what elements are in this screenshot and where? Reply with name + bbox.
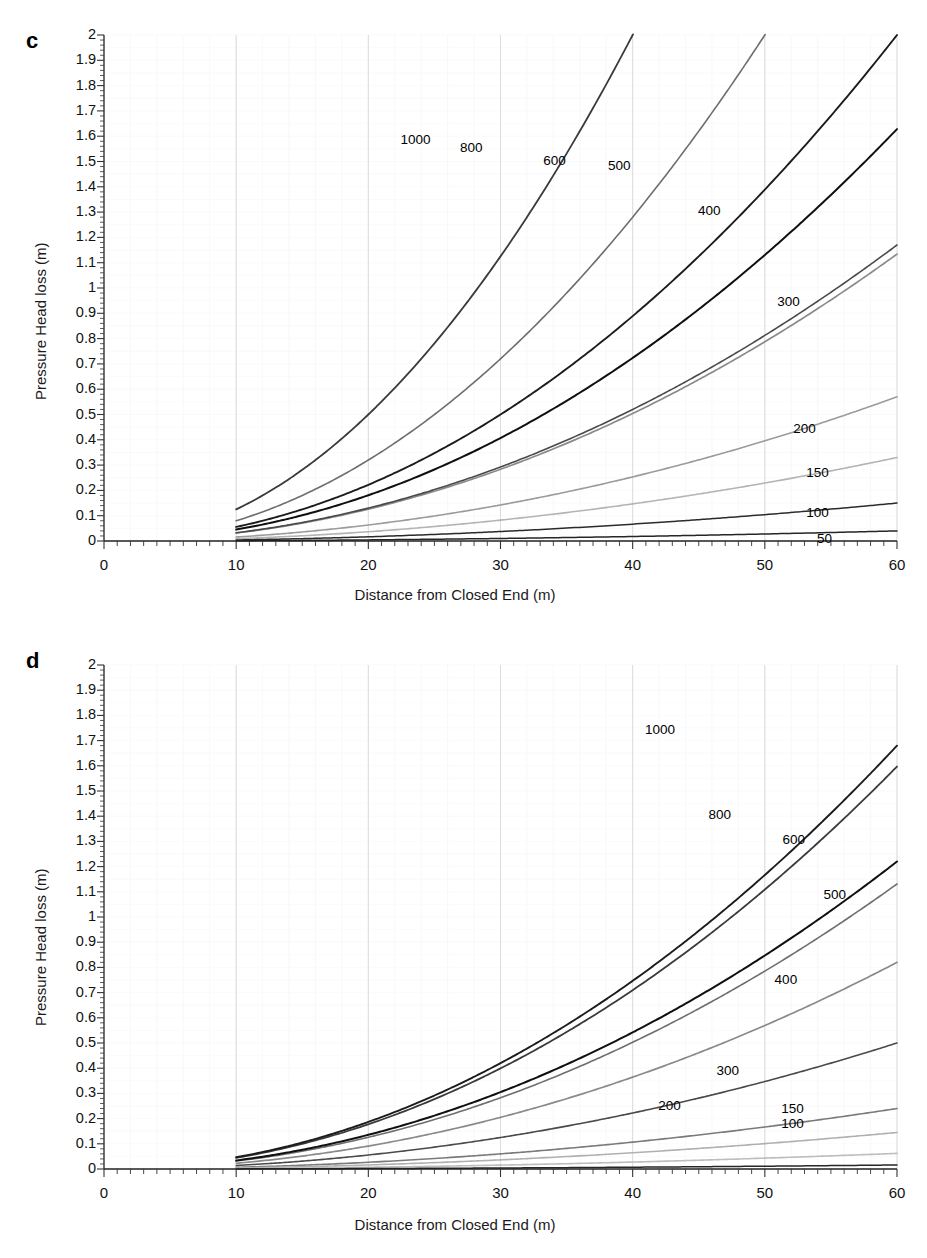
curve-label-500: 500 (608, 159, 631, 173)
curve-label-100: 100 (781, 1117, 804, 1131)
curve-label-800: 800 (460, 141, 483, 155)
curve-label-1000: 1000 (401, 133, 431, 147)
y-tick-label: 1 (48, 909, 96, 924)
x-tick-label: 50 (740, 1185, 790, 1200)
y-tick-label: 1.2 (48, 859, 96, 874)
y-tick-label: 0.1 (48, 1136, 96, 1151)
chart-plot-d (0, 628, 927, 1258)
y-tick-label: 1.8 (48, 78, 96, 93)
y-tick-label: 1.1 (48, 255, 96, 270)
x-tick-label: 40 (608, 1185, 658, 1200)
x-tick-label: 60 (872, 557, 922, 572)
y-tick-label: 1.5 (48, 783, 96, 798)
panel-c: c Pressure Head loss (m) Pipe diameter -… (0, 0, 927, 628)
curve-label-1000: 1000 (645, 723, 675, 737)
chart-plot-c (0, 0, 927, 628)
y-tick-label: 0 (48, 533, 96, 548)
y-tick-label: 0.7 (48, 356, 96, 371)
x-tick-label: 10 (211, 557, 261, 572)
y-tick-label: 0.6 (48, 1010, 96, 1025)
curve-label-100: 100 (806, 506, 829, 520)
curve-label-400: 400 (698, 204, 721, 218)
y-tick-label: 0.9 (48, 934, 96, 949)
curve-label-50: 50 (817, 532, 832, 546)
y-tick-label: 0.8 (48, 331, 96, 346)
y-tick-label: 2 (48, 27, 96, 42)
curve-label-600: 600 (783, 833, 806, 847)
curve-label-200: 200 (658, 1099, 681, 1113)
y-tick-label: 0.3 (48, 457, 96, 472)
y-tick-label: 1.9 (48, 52, 96, 67)
y-tick-label: 1.6 (48, 128, 96, 143)
y-tick-label: 2 (48, 657, 96, 672)
y-tick-label: 1.9 (48, 682, 96, 697)
y-tick-label: 0.9 (48, 305, 96, 320)
y-tick-label: 0.6 (48, 381, 96, 396)
x-tick-label: 30 (476, 1185, 526, 1200)
x-tick-label: 60 (872, 1185, 922, 1200)
x-tick-label: 50 (740, 557, 790, 572)
curve-label-500: 500 (824, 888, 847, 902)
y-tick-label: 0.1 (48, 508, 96, 523)
y-tick-label: 1.2 (48, 229, 96, 244)
x-tick-label: 0 (79, 557, 129, 572)
y-tick-label: 1 (48, 280, 96, 295)
x-tick-label: 30 (476, 557, 526, 572)
y-tick-label: 1.6 (48, 758, 96, 773)
curve-label-800: 800 (709, 808, 732, 822)
x-tick-label: 20 (343, 557, 393, 572)
y-tick-label: 1.3 (48, 833, 96, 848)
x-tick-label: 0 (79, 1185, 129, 1200)
y-tick-label: 1.1 (48, 884, 96, 899)
curve-label-150: 150 (806, 466, 829, 480)
curve-label-400: 400 (775, 973, 798, 987)
x-tick-label: 40 (608, 557, 658, 572)
y-tick-label: 0.8 (48, 959, 96, 974)
x-tick-label: 20 (343, 1185, 393, 1200)
y-tick-label: 0.3 (48, 1085, 96, 1100)
y-tick-label: 0.4 (48, 1060, 96, 1075)
y-tick-label: 0.7 (48, 985, 96, 1000)
y-tick-label: 1.7 (48, 733, 96, 748)
curve-label-300: 300 (777, 295, 800, 309)
y-tick-label: 1.7 (48, 103, 96, 118)
curve-label-200: 200 (793, 422, 816, 436)
curve-label-600: 600 (543, 154, 566, 168)
panel-d: d Pressure Head loss (m) Pipe Diameter -… (0, 628, 927, 1258)
y-tick-label: 0.5 (48, 407, 96, 422)
y-tick-label: 0 (48, 1161, 96, 1176)
curve-label-150: 150 (781, 1102, 804, 1116)
y-tick-label: 1.4 (48, 808, 96, 823)
y-tick-label: 0.2 (48, 1111, 96, 1126)
y-tick-label: 1.3 (48, 204, 96, 219)
y-tick-label: 1.5 (48, 154, 96, 169)
y-tick-label: 1.4 (48, 179, 96, 194)
y-tick-label: 1.8 (48, 707, 96, 722)
y-tick-label: 0.2 (48, 482, 96, 497)
y-tick-label: 0.4 (48, 432, 96, 447)
y-tick-label: 0.5 (48, 1035, 96, 1050)
x-tick-label: 10 (211, 1185, 261, 1200)
curve-label-300: 300 (716, 1064, 739, 1078)
